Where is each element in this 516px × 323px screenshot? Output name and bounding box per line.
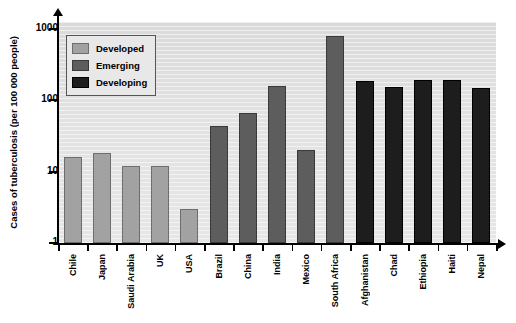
x-tick-label-text: Brazil	[212, 254, 226, 279]
x-tick-label-text: Saudi Arabia	[124, 254, 138, 309]
x-tick-label-south-africa: South Africa	[328, 254, 342, 320]
bar-brazil	[210, 126, 228, 243]
x-tick-mark	[408, 245, 410, 251]
x-tick-mark	[438, 245, 440, 251]
bar-china	[239, 113, 257, 243]
x-tick-label-text: USA	[182, 254, 196, 273]
x-tick-mark	[262, 245, 264, 251]
legend-item-developing: Developing	[72, 74, 147, 91]
x-tick-mark	[467, 245, 469, 251]
x-tick-label-japan: Japan	[95, 254, 109, 320]
bar-usa	[180, 209, 198, 243]
bar-nepal	[472, 88, 490, 243]
x-tick-label-text: Mexico	[299, 254, 313, 285]
x-tick-label-china: China	[241, 254, 255, 320]
legend-swatch-developing	[72, 77, 89, 88]
bar-chad	[385, 87, 403, 243]
bar-india	[268, 86, 286, 243]
legend-swatch-emerging	[72, 60, 89, 71]
x-tick-mark	[58, 245, 60, 251]
x-tick-label-text: Haiti	[445, 254, 459, 274]
x-tick-label-usa: USA	[182, 254, 196, 320]
x-tick-label-saudi-arabia: Saudi Arabia	[124, 254, 138, 320]
bar-afghanistan	[356, 81, 374, 243]
x-tick-mark	[321, 245, 323, 251]
x-tick-label-text: Chad	[387, 254, 401, 277]
x-tick-label-text: Nepal	[474, 254, 488, 279]
x-tick-label-text: India	[270, 254, 284, 275]
x-tick-label-chile: Chile	[66, 254, 80, 320]
x-tick-mark	[496, 245, 498, 251]
x-tick-label-brazil: Brazil	[212, 254, 226, 320]
x-tick-label-mexico: Mexico	[299, 254, 313, 320]
x-tick-label-india: India	[270, 254, 284, 320]
x-tick-mark	[379, 245, 381, 251]
x-tick-label-chad: Chad	[387, 254, 401, 320]
x-tick-mark	[204, 245, 206, 251]
x-tick-label-text: Afghanistan	[358, 254, 372, 306]
x-tick-label-text: China	[241, 254, 255, 279]
x-axis-line	[57, 243, 500, 245]
x-tick-label-text: Japan	[95, 254, 109, 280]
y-tick-label: 1000	[12, 22, 58, 33]
x-tick-label-text: UK	[153, 254, 167, 267]
x-tick-label-text: Ethiopia	[416, 254, 430, 290]
legend-swatch-developed	[72, 43, 89, 54]
legend-item-emerging: Emerging	[72, 57, 147, 74]
x-tick-label-text: Chile	[66, 254, 80, 276]
legend-item-developed: Developed	[72, 40, 147, 57]
legend-label: Emerging	[96, 60, 140, 71]
bar-chile	[64, 157, 82, 243]
x-tick-mark	[233, 245, 235, 251]
bar-uk	[151, 166, 169, 243]
x-tick-mark	[116, 245, 118, 251]
x-tick-label-nepal: Nepal	[474, 254, 488, 320]
legend-label: Developed	[96, 43, 144, 54]
x-tick-label-ethiopia: Ethiopia	[416, 254, 430, 320]
x-tick-label-haiti: Haiti	[445, 254, 459, 320]
x-tick-label-text: South Africa	[328, 254, 342, 307]
x-tick-mark	[146, 245, 148, 251]
bar-mexico	[297, 150, 315, 243]
y-tick-label: 10	[12, 165, 58, 176]
x-tick-label-afghanistan: Afghanistan	[358, 254, 372, 320]
x-tick-label-uk: UK	[153, 254, 167, 320]
legend-label: Developing	[96, 77, 147, 88]
x-tick-mark	[87, 245, 89, 251]
x-tick-mark	[175, 245, 177, 251]
bar-ethiopia	[414, 80, 432, 244]
bar-saudi-arabia	[122, 166, 140, 243]
legend: DevelopedEmergingDeveloping	[66, 35, 156, 96]
x-axis-arrowhead	[498, 239, 506, 249]
x-tick-mark	[292, 245, 294, 251]
bar-japan	[93, 153, 111, 243]
bar-haiti	[443, 80, 461, 243]
y-axis-ticks: 1000100101	[0, 0, 58, 260]
y-tick-label: 1	[12, 236, 58, 247]
tuberculosis-bar-chart: Cases of tuberculosis (per 100 000 peopl…	[0, 0, 516, 323]
x-tick-mark	[350, 245, 352, 251]
bar-south-africa	[326, 36, 344, 243]
y-tick-label: 100	[12, 93, 58, 104]
